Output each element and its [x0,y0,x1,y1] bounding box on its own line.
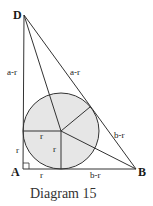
diagram-caption: Diagram 15 [30,186,96,201]
label-radius-vertical: r [53,144,56,154]
side-ad [23,15,24,169]
label-ab-left: r [40,170,43,180]
label-db-lower: b-r [114,130,125,140]
label-ad-upper: a-r [7,67,17,77]
right-angle-mark [23,163,29,169]
label-radius-horizontal: r [40,131,43,141]
diagram-figure: D A B a-r a-r b-r r r b-r r r Diagram 15 [0,0,153,206]
point-a-label: A [11,165,20,179]
point-b-label: B [138,165,146,179]
label-ab-right: b-r [90,170,101,180]
label-ad-lower: r [16,145,19,155]
point-d-label: D [13,8,22,22]
label-db-upper: a-r [70,67,80,77]
